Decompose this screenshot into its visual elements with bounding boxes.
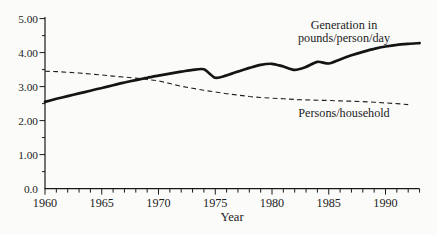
line-chart: 0.01.002.003.004.005.0019601965197019751…	[0, 0, 437, 235]
x-tick-label: 1970	[146, 196, 170, 210]
series-line-generation	[45, 43, 420, 102]
x-tick-label: 1980	[260, 196, 284, 210]
y-tick-label: 0.0	[24, 183, 38, 195]
x-tick-label: 1985	[317, 196, 341, 210]
y-tick-label: 2.00	[18, 115, 38, 127]
x-tick-label: 1975	[203, 196, 227, 210]
line-chart-figure: 0.01.002.003.004.005.0019601965197019751…	[0, 0, 437, 235]
y-tick-label: 1.00	[18, 149, 38, 161]
y-tick-label: 4.00	[18, 47, 38, 59]
y-tick-label: 3.00	[18, 81, 38, 93]
generation-series-label: pounds/person/day	[298, 31, 391, 45]
y-tick-label: 5.00	[18, 13, 38, 25]
x-tick-label: 1990	[373, 196, 397, 210]
x-tick-label: 1960	[33, 196, 57, 210]
x-tick-label: 1965	[90, 196, 114, 210]
persons-household-series-label: Persons/household	[298, 106, 389, 120]
x-axis-title: Year	[220, 210, 244, 224]
